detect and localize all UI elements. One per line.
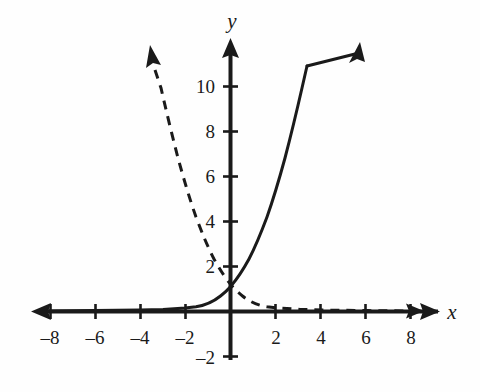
y-tick-label-10: 10 [196,76,215,97]
y-tick-label--2: –2 [195,347,215,368]
y-tick-label-8: 8 [206,121,216,142]
solid-curve-tail [307,54,355,66]
x-tick-label--2: –2 [175,327,195,348]
solid-curve-arrow-icon [349,42,365,63]
exponential-graph-figure: x y –8 –6 –4 –2 2 4 6 8 10 8 6 4 2 –2 [0,0,480,392]
plot-canvas: x y –8 –6 –4 –2 2 4 6 8 10 8 6 4 2 –2 [0,0,480,392]
x-tick-label-4: 4 [316,327,326,348]
dashed-exponential-curve [155,70,415,311]
y-tick-label-6: 6 [206,166,216,187]
x-axis-right-arrow-icon [420,303,440,320]
solid-exponential-curve [48,66,307,311]
y-tick-label-4: 4 [206,211,216,232]
y-axis-label: y [225,9,237,33]
dashed-curve-group [146,45,424,319]
y-axis-up-arrow-icon [222,38,239,58]
x-tick-label--8: –8 [40,327,60,348]
x-tick-label-8: 8 [406,327,416,348]
x-axis-label: x [446,300,457,324]
x-tick-label--6: –6 [85,327,105,348]
y-tick-label-2: 2 [206,256,216,277]
x-tick-label-2: 2 [271,327,281,348]
x-tick-label-6: 6 [361,327,371,348]
x-tick-label--4: –4 [130,327,151,348]
dashed-curve-arrow-icon [146,45,161,68]
